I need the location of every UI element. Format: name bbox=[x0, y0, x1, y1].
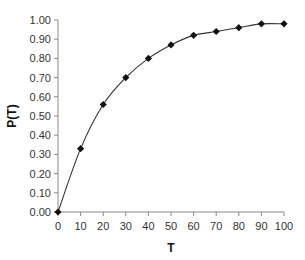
x-axis: 0102030405060708090100 bbox=[55, 212, 293, 232]
data-point-marker bbox=[190, 32, 197, 39]
y-tick-label: 0.20 bbox=[30, 168, 51, 180]
y-tick-label: 0.40 bbox=[30, 129, 51, 141]
x-tick-label: 30 bbox=[120, 220, 132, 232]
y-tick-label: 0.30 bbox=[30, 148, 51, 160]
x-tick-label: 60 bbox=[187, 220, 199, 232]
data-point-marker bbox=[77, 145, 84, 152]
data-point-marker bbox=[235, 24, 242, 31]
y-tick-label: 1.00 bbox=[30, 14, 51, 26]
data-point-marker bbox=[167, 41, 174, 48]
plot-area bbox=[54, 20, 287, 215]
y-tick-label: 0.90 bbox=[30, 33, 51, 45]
data-point-marker bbox=[280, 20, 287, 27]
y-axis-title: P(T) bbox=[5, 104, 19, 127]
x-axis-title: T bbox=[167, 241, 175, 255]
x-tick-label: 80 bbox=[233, 220, 245, 232]
x-tick-label: 90 bbox=[255, 220, 267, 232]
data-point-marker bbox=[258, 20, 265, 27]
chart: 0.000.100.200.300.400.500.600.700.800.90… bbox=[0, 0, 305, 260]
x-tick-label: 40 bbox=[142, 220, 154, 232]
x-tick-label: 0 bbox=[55, 220, 61, 232]
data-point-marker bbox=[100, 101, 107, 108]
data-point-marker bbox=[54, 208, 61, 215]
y-tick-label: 0.10 bbox=[30, 187, 51, 199]
y-tick-label: 0.70 bbox=[30, 72, 51, 84]
x-tick-label: 10 bbox=[74, 220, 86, 232]
y-tick-label: 0.00 bbox=[30, 206, 51, 218]
y-tick-label: 0.60 bbox=[30, 91, 51, 103]
y-tick-label: 0.50 bbox=[30, 110, 51, 122]
x-tick-label: 70 bbox=[210, 220, 222, 232]
x-tick-label: 50 bbox=[165, 220, 177, 232]
data-point-marker bbox=[213, 28, 220, 35]
x-tick-label: 20 bbox=[97, 220, 109, 232]
y-tick-label: 0.80 bbox=[30, 52, 51, 64]
x-tick-label: 100 bbox=[275, 220, 293, 232]
series-line bbox=[58, 24, 284, 212]
y-axis: 0.000.100.200.300.400.500.600.700.800.90… bbox=[30, 14, 58, 218]
